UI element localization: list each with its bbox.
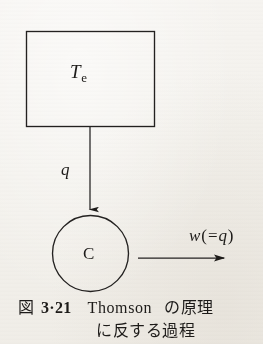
work-label-variable: w: [189, 226, 201, 245]
caption-fig-word: 図: [18, 299, 34, 316]
reservoir-label: Te: [70, 62, 87, 84]
work-label-open-paren: (: [201, 226, 207, 245]
caption-line1-japanese: の原理: [164, 299, 214, 316]
caption-line-2: に反する過程: [0, 319, 263, 342]
figure-caption: 図3·21Thomsonの原理 に反する過程: [0, 296, 263, 342]
caption-line2-japanese: に反する過程: [96, 322, 195, 339]
heat-arrow-label: q: [61, 161, 70, 178]
engine-label: C: [83, 245, 95, 262]
caption-roman-name: Thomson: [88, 299, 153, 316]
work-label-equals: =: [208, 226, 218, 245]
work-label-value: q: [219, 226, 228, 245]
work-arrow-label: w(=q): [189, 227, 234, 244]
diagram-drawing: [0, 0, 263, 344]
reservoir-box: [27, 32, 155, 127]
caption-fig-number: 3·21: [41, 299, 72, 316]
reservoir-label-main: T: [70, 61, 81, 82]
reservoir-label-subscript: e: [81, 70, 87, 85]
work-label-close-paren: ): [228, 226, 234, 245]
figure-container: Te q C w(=q) 図3·21Thomsonの原理 に反する過程: [0, 0, 263, 344]
caption-line-1: 図3·21Thomsonの原理: [0, 296, 263, 319]
